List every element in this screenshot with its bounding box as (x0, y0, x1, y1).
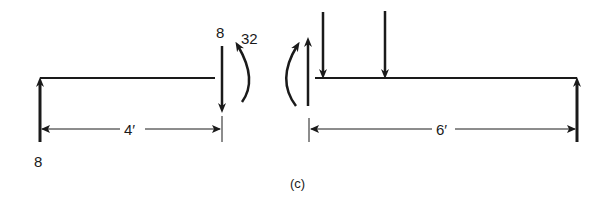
moment-label: 32 (241, 30, 258, 47)
shear-label: 8 (216, 24, 224, 41)
left-segment: 8 8 32 4′ (34, 24, 258, 170)
free-body-diagram: 8 8 32 4′ 6′ (c) (0, 0, 606, 202)
figure-caption: (c) (290, 176, 305, 191)
moment-arrow-left-icon (238, 46, 249, 102)
right-segment: 6′ (286, 11, 577, 142)
moment-arrow-right-icon (286, 46, 297, 106)
left-length-label: 4′ (124, 121, 135, 138)
left-reaction-label: 8 (34, 153, 42, 170)
right-length-label: 6′ (436, 121, 447, 138)
